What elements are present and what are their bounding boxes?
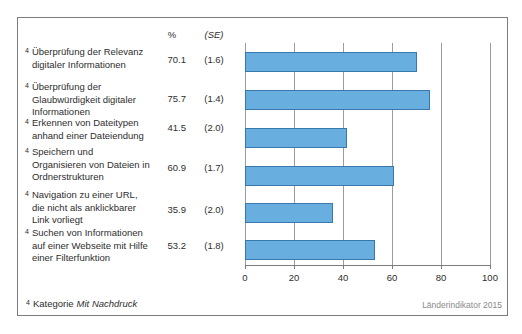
plot-area: 020406080100: [245, 43, 490, 266]
se-value-3: (2.0): [198, 122, 230, 133]
axis-tick-label-80: 80: [436, 272, 447, 283]
gridline-20: [294, 43, 295, 265]
gridline-40: [343, 43, 344, 265]
axis-tick-label-60: 60: [387, 272, 398, 283]
bar-row-1: [245, 52, 417, 72]
source-label: Länderindikator 2015: [422, 300, 502, 310]
category-label: Überprüfung der Glaubwürdigkeit digitale…: [32, 81, 136, 119]
axis-tick-label-40: 40: [338, 272, 349, 283]
bar-row-6: [245, 240, 375, 260]
category-label: Erkennen von Dateitypen anhand einer Dat…: [32, 117, 144, 142]
bar-row-3: [245, 128, 347, 148]
se-value-5: (2.0): [198, 204, 230, 215]
se-value-1: (1.6): [198, 54, 230, 65]
se-value-6: (1.8): [198, 240, 230, 251]
percent-column-header: %: [158, 29, 186, 40]
percent-value-6: 53.2: [152, 240, 186, 251]
footnote-marker: 4: [26, 298, 30, 308]
chart-figure: % (SE) 4Überprüfung der Relevanz digital…: [0, 0, 522, 334]
se-value-2: (1.4): [198, 93, 230, 104]
footnote-marker: 4: [25, 81, 29, 91]
axis-tick-label-20: 20: [289, 272, 300, 283]
bar-row-5: [245, 203, 333, 223]
footnote-marker: 4: [25, 46, 29, 56]
gridline-100: [490, 43, 491, 265]
axis-tick-40: [343, 265, 344, 269]
se-column-header: (SE): [198, 29, 230, 40]
chart-frame: % (SE) 4Überprüfung der Relevanz digital…: [17, 17, 508, 316]
percent-value-1: 70.1: [152, 54, 186, 65]
axis-tick-100: [490, 265, 491, 269]
axis-tick-label-100: 100: [482, 272, 498, 283]
percent-value-3: 41.5: [152, 122, 186, 133]
percent-value-4: 60.9: [152, 162, 186, 173]
axis-tick-60: [392, 265, 393, 269]
footnote-marker: 4: [25, 117, 29, 127]
category-label: Speichern und Organisieren von Dateien i…: [32, 146, 150, 184]
footnote-text: Kategorie: [33, 298, 74, 309]
axis-tick-80: [441, 265, 442, 269]
bar-row-4: [245, 166, 394, 186]
gridline-80: [441, 43, 442, 265]
axis-tick-label-0: 0: [242, 272, 247, 283]
footnote-emphasis: Mit Nachdruck: [77, 298, 138, 309]
gridline-60: [392, 43, 393, 265]
category-label: Überprüfung der Relevanz digitaler Infor…: [32, 46, 143, 71]
footnote-marker: 4: [25, 227, 29, 237]
axis-tick-20: [294, 265, 295, 269]
percent-value-5: 35.9: [152, 204, 186, 215]
footnote-marker: 4: [25, 189, 29, 199]
gridline-0: [245, 43, 246, 265]
footnote-marker: 4: [25, 146, 29, 156]
percent-value-2: 75.7: [152, 93, 186, 104]
footnote: 4 Kategorie Mit Nachdruck: [26, 298, 137, 309]
axis-tick-0: [245, 265, 246, 269]
se-value-4: (1.7): [198, 162, 230, 173]
bar-row-2: [245, 90, 430, 110]
category-label: Navigation zu einer URL, die nicht als a…: [32, 189, 138, 227]
category-label: Suchen von Informationen auf einer Webse…: [32, 227, 148, 265]
